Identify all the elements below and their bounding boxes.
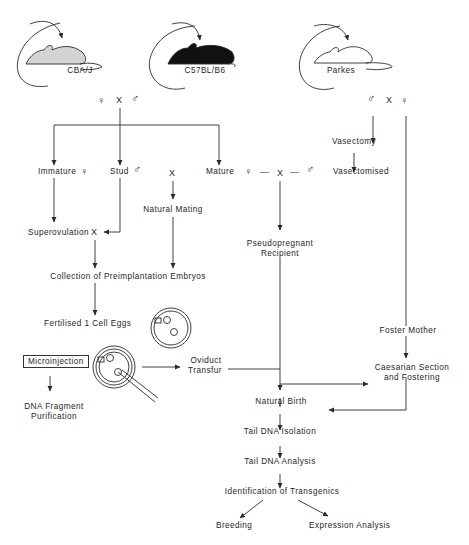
cross-symbol-superovulation: X: [91, 227, 97, 237]
microinjection-box: Microinjection: [23, 355, 89, 368]
vasectomised-label: Vasectomised: [333, 167, 389, 177]
female-symbol-mature: ♀: [244, 165, 252, 177]
microinjected-egg-icon: [93, 346, 158, 402]
strain-label-parkes: Parkes: [327, 66, 355, 76]
stud-label: Stud: [110, 167, 129, 177]
strain-label-c57: C57BL/B6: [185, 66, 226, 76]
natural-mating-label: Natural Mating: [143, 205, 203, 215]
purification-label: Purification: [31, 412, 77, 422]
female-symbol-parkes: ♀: [400, 94, 408, 106]
foster-mother-label: Foster Mother: [380, 326, 437, 336]
dash-2: —: [290, 167, 299, 177]
immature-label: Immature: [38, 167, 76, 177]
pseudopregnant-label: Pseudopregnant: [247, 239, 313, 249]
breeding-label: Breeding: [216, 521, 252, 531]
male-symbol: ♂: [131, 92, 139, 104]
transfer-label: Transfur: [188, 366, 222, 376]
strain-label-cba: CBA/J: [67, 66, 92, 76]
fertilised-label: Fertilised 1 Cell Eggs: [44, 319, 131, 329]
mature-label: Mature: [206, 167, 234, 177]
male-symbol-parkes: ♂: [367, 92, 375, 104]
c57-mouse-icon: [168, 44, 234, 65]
dna-fragment-label: DNA Fragment: [24, 402, 84, 412]
natural-birth-label: Natural Birth: [255, 397, 306, 407]
male-symbol-stud: ♂: [133, 163, 141, 175]
dash-1: —: [260, 167, 269, 177]
caesarian-label: Caesarian Section: [375, 363, 450, 373]
cross-symbol-parkes: X: [386, 95, 392, 105]
male-symbol-mature: ♂: [306, 163, 314, 175]
parkes-mouse-icon: [314, 47, 372, 63]
recipient-label: Recipient: [261, 249, 299, 259]
identification-label: Identification of Transgenics: [225, 487, 340, 497]
female-symbol-immature: ♀: [80, 165, 88, 177]
expression-analysis-label: Expression Analysis: [309, 521, 390, 531]
tail-isolation-label: Tail DNA Isolation: [244, 427, 316, 437]
fostering-label: and Fostering: [384, 373, 440, 383]
cross-symbol-natural: X: [169, 168, 175, 178]
fertilised-egg-icon: [151, 308, 191, 348]
vasectomy-label: Vasectomy: [332, 137, 376, 147]
female-symbol: ♀: [97, 94, 105, 106]
oviduct-label: Oviduct: [191, 356, 222, 366]
cross-symbol-mature: X: [277, 168, 283, 178]
collection-label: Collection of Preimplantation Embryos: [50, 272, 205, 282]
cross-symbol: X: [116, 95, 122, 105]
cba-mouse-icon: [26, 46, 86, 65]
tail-analysis-label: Tail DNA Analysis: [244, 457, 315, 467]
superovulation-label: Superovulation: [28, 228, 89, 238]
